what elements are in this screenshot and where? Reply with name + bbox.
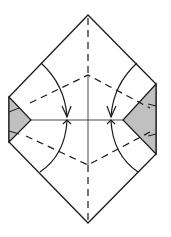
origami-diagram [0, 0, 171, 237]
